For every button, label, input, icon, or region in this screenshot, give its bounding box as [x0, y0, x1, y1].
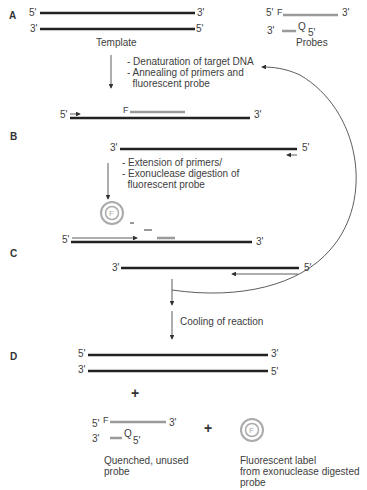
- plus-sign-2: +: [204, 420, 212, 436]
- b-bottom-5prime: 5': [302, 142, 309, 153]
- probe-f-5prime: 5': [266, 7, 273, 18]
- unused-3prime: 3': [169, 417, 176, 428]
- template-label: Template: [96, 37, 137, 48]
- step-label-d: D: [10, 351, 17, 362]
- probes-label: Probes: [296, 37, 328, 48]
- plus-sign-1: +: [131, 385, 139, 401]
- note-b-to-c: - Extension of primers/ - Exonuclease di…: [122, 157, 239, 190]
- d-circle-f: F: [249, 425, 254, 436]
- a-bottom-3prime: 3': [30, 23, 37, 34]
- step-label-c: C: [10, 248, 17, 259]
- unused-q-5prime: 5': [133, 435, 140, 446]
- d-top-5prime: 5': [78, 348, 85, 359]
- b-top-5prime: 5': [60, 109, 67, 120]
- quenched-probe-caption: Quenched, unused probe: [104, 455, 189, 477]
- d-bottom-3prime: 3': [78, 364, 85, 375]
- probe-q-3prime: 3': [267, 25, 274, 36]
- d-bottom-5prime: 5': [271, 366, 278, 377]
- b-probe-f: F: [123, 105, 129, 116]
- unused-bottom-3prime: 3': [92, 433, 99, 444]
- c-top-3prime: 3': [256, 236, 263, 247]
- probe-f-3prime: 3': [342, 7, 349, 18]
- a-top-3prime: 3': [197, 7, 204, 18]
- probe-q-letter: Q: [298, 21, 306, 32]
- c-bottom-5prime: 5': [304, 262, 311, 273]
- step-label-b: B: [10, 131, 17, 142]
- a-top-5prime: 5': [29, 7, 36, 18]
- probe-f-letter: F: [277, 7, 283, 18]
- b-bottom-3prime: 3': [110, 142, 117, 153]
- c-circle-f: F: [109, 208, 114, 219]
- b-top-3prime: 3': [254, 109, 261, 120]
- c-bottom-3prime: 3': [112, 262, 119, 273]
- unused-5prime: 5': [92, 418, 99, 429]
- step-label-a: A: [9, 10, 16, 21]
- note-cooling: Cooling of reaction: [180, 316, 263, 327]
- unused-q-letter: Q: [124, 428, 132, 439]
- c-top-5prime: 5': [62, 234, 69, 245]
- unused-f-letter: F: [103, 415, 109, 426]
- note-a-to-b: - Denaturation of target DNA - Annealing…: [127, 56, 254, 89]
- fluorescent-label-caption: Fluorescent label from exonuclease diges…: [240, 455, 360, 488]
- a-bottom-5prime: 5': [196, 23, 203, 34]
- d-top-3prime: 3': [271, 348, 278, 359]
